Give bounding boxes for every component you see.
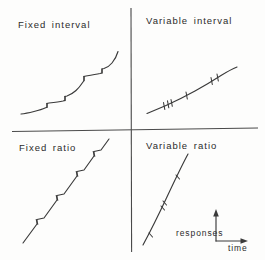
axis-label-responses: responses	[176, 228, 223, 238]
variable-interval-cumulative-line	[147, 67, 237, 114]
variable-interval-tick-6	[217, 74, 218, 81]
axis-key-y-arrowhead	[213, 209, 219, 217]
fixed-ratio-cumulative-line	[23, 139, 109, 243]
figure-canvas	[0, 0, 265, 260]
axis-label-time: time	[228, 243, 248, 253]
divider-vertical-line	[131, 8, 132, 252]
quadrant-label-fixed-interval: Fixed interval	[18, 19, 91, 30]
variable-ratio-tick-1	[149, 233, 153, 237]
variable-interval-tick-3	[171, 100, 172, 107]
curve-variable-interval	[147, 67, 237, 114]
reinforcement-schedules-figure: Fixed interval Variable interval Fixed r…	[0, 0, 265, 260]
variable-interval-tick-4	[186, 92, 187, 99]
quadrant-label-variable-interval: Variable interval	[146, 15, 232, 26]
axis-key	[213, 209, 248, 244]
variable-interval-tick-5	[211, 78, 212, 85]
curve-fixed-ratio	[23, 139, 109, 243]
quadrant-label-variable-ratio: Variable ratio	[146, 140, 217, 151]
variable-interval-tick-2	[168, 101, 169, 108]
variable-interval-tick-1	[164, 103, 165, 110]
fixed-interval-cumulative-line	[21, 52, 118, 115]
curve-fixed-interval	[21, 52, 118, 115]
quadrant-divider	[12, 8, 258, 252]
quadrant-label-fixed-ratio: Fixed ratio	[19, 142, 76, 153]
divider-horizontal-line	[12, 128, 258, 132]
